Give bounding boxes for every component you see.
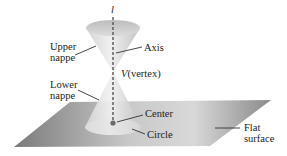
axis-label: Axis xyxy=(144,42,164,53)
vertex-label: V(vertex) xyxy=(121,68,161,79)
flat-surface-label-line1: Flat xyxy=(244,122,274,133)
lower-nappe-label: Lower nappe xyxy=(50,79,77,101)
axis-symbol-label: l xyxy=(111,4,114,15)
flat-surface-plane xyxy=(14,100,271,147)
lower-nappe-label-line1: Lower xyxy=(50,79,77,90)
upper-nappe-label-line2: nappe xyxy=(50,52,76,63)
vertex-text: (vertex) xyxy=(127,68,160,79)
circle-label: Circle xyxy=(147,129,173,140)
flat-surface-label: Flat surface xyxy=(244,122,274,144)
center-dot xyxy=(110,120,115,125)
lower-nappe-label-line2: nappe xyxy=(50,90,77,101)
upper-nappe-label: Upper nappe xyxy=(50,41,76,63)
flat-surface-label-line2: surface xyxy=(244,133,274,144)
center-label: Center xyxy=(145,108,173,119)
upper-nappe-label-line1: Upper xyxy=(50,41,76,52)
